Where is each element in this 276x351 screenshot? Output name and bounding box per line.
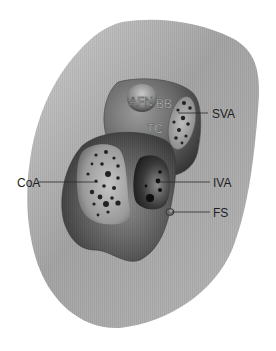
- label-afn: AFN: [129, 95, 153, 109]
- label-coa: CoA: [17, 176, 40, 190]
- anatomical-diagram: AFN BB SVA TC CoA IVA FS: [0, 0, 276, 351]
- label-fs: FS: [213, 206, 228, 220]
- label-bb: BB: [156, 97, 172, 111]
- coa-structure: [77, 144, 130, 224]
- label-tc: TC: [147, 122, 163, 136]
- label-iva: IVA: [213, 176, 231, 190]
- label-sva: SVA: [212, 107, 235, 121]
